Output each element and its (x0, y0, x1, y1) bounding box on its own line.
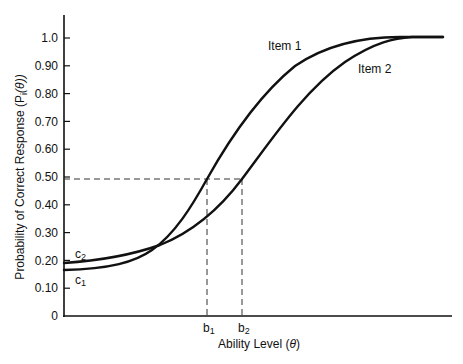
item-1-label: Item 1 (268, 39, 302, 53)
y-ticks (64, 38, 70, 288)
y-tick-label: 0.20 (35, 254, 59, 268)
y-tick-label: 0 (51, 309, 58, 323)
y-axis-label: Probability of Correct Response (Pi(θ)) (13, 74, 29, 279)
y-tick-label: 1.0 (41, 31, 58, 45)
y-tick-label: 0.50 (35, 170, 59, 184)
y-tick-labels: 1.0 0.90 0.80 0.70 0.60 0.50 0.40 0.30 0… (35, 31, 59, 323)
y-tick-label: 0.90 (35, 59, 59, 73)
b2-label: b2 (238, 321, 250, 336)
y-tick-label: 0.80 (35, 87, 59, 101)
c2-label: c2 (75, 247, 86, 262)
y-tick-label: 0.60 (35, 142, 59, 156)
y-tick-label: 0.70 (35, 115, 59, 129)
b1-label: b1 (203, 321, 215, 336)
y-tick-label: 0.40 (35, 198, 59, 212)
x-axis-label: Ability Level (θ) (218, 337, 300, 351)
item-2-label: Item 2 (358, 62, 392, 76)
y-tick-label: 0.30 (35, 226, 59, 240)
irt-chart: 1.0 0.90 0.80 0.70 0.60 0.50 0.40 0.30 0… (0, 0, 463, 364)
c1-label: c1 (75, 273, 86, 288)
y-tick-label: 0.10 (35, 281, 59, 295)
